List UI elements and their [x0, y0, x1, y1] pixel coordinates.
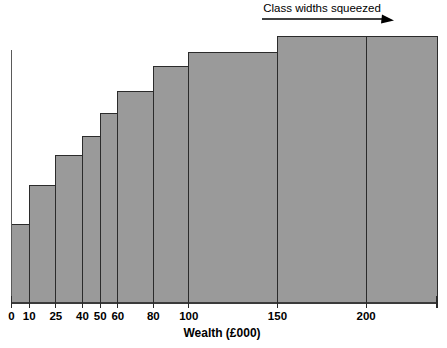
histogram-bar — [366, 36, 437, 303]
histogram-bar — [56, 155, 83, 303]
annotation-arrow-head-icon — [381, 15, 394, 24]
histogram-bar — [100, 114, 118, 303]
histogram-bar — [153, 66, 188, 303]
x-axis-tick-label: 80 — [147, 310, 160, 322]
annotation-class-widths-squeezed: Class widths squeezed — [262, 2, 394, 24]
x-axis-tick-label: 25 — [49, 310, 62, 322]
x-axis-tick-label: 150 — [268, 310, 287, 322]
histogram-bar — [189, 52, 278, 303]
x-axis-tick-label: 10 — [23, 310, 36, 322]
histogram-plot: 0102540506080100150200 Wealth (£000) Cla… — [0, 0, 447, 348]
bars-group — [12, 36, 438, 303]
x-axis-tick-label: 40 — [76, 310, 89, 322]
histogram-bar — [118, 92, 153, 303]
x-axis-tick-label: 100 — [179, 310, 198, 322]
x-axis-tick-label: 50 — [94, 310, 107, 322]
x-axis-tick-label: 0 — [8, 310, 14, 322]
histogram-bar — [29, 185, 56, 303]
histogram-bar — [82, 136, 100, 303]
x-axis-tick-label: 60 — [111, 310, 124, 322]
annotation-label: Class widths squeezed — [263, 2, 381, 14]
histogram-figure: 0102540506080100150200 Wealth (£000) Cla… — [0, 0, 447, 348]
x-axis-title: Wealth (£000) — [183, 326, 260, 340]
x-axis-tick-label: 200 — [356, 310, 375, 322]
histogram-bar — [12, 225, 30, 303]
x-axis-tick-labels-group: 0102540506080100150200 — [8, 310, 375, 322]
histogram-bar — [277, 36, 366, 303]
